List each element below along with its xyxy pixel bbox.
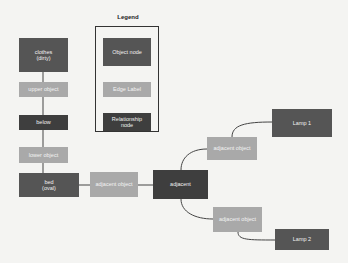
node-bed[interactable]: bed (oval) <box>19 173 79 197</box>
legend-relationship-node: Relationship node <box>103 113 151 131</box>
legend-edge-label: Edge Label <box>103 82 151 97</box>
edge-label-adjacent-object-lower[interactable]: adjacent object <box>213 207 262 232</box>
edge-adjobj-lower-lamp2 <box>238 232 275 240</box>
edge-label-adjacent-object-upper[interactable]: adjacent object <box>207 137 257 160</box>
node-below[interactable]: below <box>19 115 68 130</box>
node-lamp-2[interactable]: Lamp 2 <box>275 229 329 250</box>
edge-adjacent-adjobj-upper <box>181 149 207 170</box>
edge-adjacent-adjobj-lower <box>181 199 213 219</box>
node-adjacent[interactable]: adjacent <box>153 170 208 199</box>
legend-object-node: Object node <box>103 38 151 66</box>
edge-label-upper-object[interactable]: upper object <box>19 82 68 97</box>
node-lamp-1[interactable]: Lamp 1 <box>272 109 332 137</box>
node-clothes[interactable]: clothes (dirty) <box>19 38 68 72</box>
edge-label-lower-object[interactable]: lower object <box>19 147 68 163</box>
legend-title: Legend <box>95 14 161 20</box>
edge-label-adjacent-object-left[interactable]: adjacent object <box>90 172 138 197</box>
edge-adjobj-upper-lamp1 <box>232 122 272 137</box>
